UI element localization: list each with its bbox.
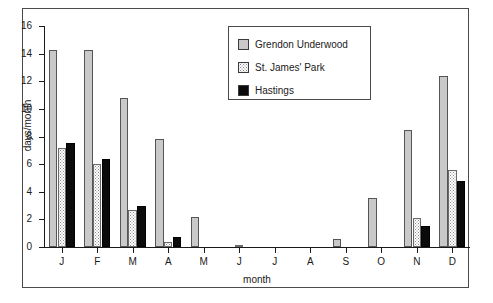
y-tick-4 [39,192,45,193]
x-tick-3 [168,248,169,253]
x-tick-label-1: F [82,256,112,267]
bar-stjames-J-5 [235,245,244,247]
x-tick-9 [381,248,382,253]
bar-stjames-M-2 [128,210,137,247]
x-tick-label-5: J [224,256,254,267]
bar-grendon-A-3 [155,139,164,247]
bar-grendon-M-2 [120,98,129,247]
y-tick-label-4: 4 [6,187,32,197]
y-tick-12 [39,81,45,82]
bar-grendon-F-1 [84,50,93,248]
x-tick-6 [275,248,276,253]
x-tick-0 [62,248,63,253]
bar-stjames-J-0 [58,148,67,247]
x-tick-label-6: J [260,256,290,267]
bar-hastings-D-11 [457,181,466,247]
bar-grendon-J-0 [49,50,58,248]
bar-stjames-A-3 [164,242,173,248]
y-tick-label-0: 0 [6,242,32,252]
x-tick-8 [346,248,347,253]
y-tick-10 [39,109,45,110]
bar-grendon-D-11 [439,76,448,247]
bar-hastings-J-0 [66,143,75,247]
x-tick-label-2: M [118,256,148,267]
x-tick-label-10: N [402,256,432,267]
y-axis-title: days/month [22,81,33,171]
y-tick-label-16: 16 [6,21,32,31]
x-tick-7 [310,248,311,253]
y-tick-0 [39,247,45,248]
y-tick-6 [39,164,45,165]
x-tick-5 [239,248,240,253]
y-tick-8 [39,137,45,138]
x-tick-label-4: M [189,256,219,267]
legend-swatch-grendon-icon [238,39,249,50]
x-axis-title: month [44,274,470,285]
x-tick-label-8: S [331,256,361,267]
bar-grendon-N-10 [404,130,413,247]
x-tick-label-0: J [47,256,77,267]
figure-frame: 0246810121416 JFMAMJJASOND days/month mo… [0,0,493,303]
x-tick-label-3: A [153,256,183,267]
y-tick-2 [39,219,45,220]
x-tick-label-7: A [295,256,325,267]
bar-grendon-O-9 [368,198,377,247]
y-tick-16 [39,26,45,27]
y-tick-label-14: 14 [6,49,32,59]
x-axis-line [44,247,470,248]
x-tick-label-9: O [366,256,396,267]
legend-label-stjames: St. James' Park [255,62,325,74]
x-tick-10 [417,248,418,253]
x-tick-2 [133,248,134,253]
bar-grendon-M-4 [191,217,200,247]
x-tick-label-11: D [437,256,467,267]
x-tick-11 [452,248,453,253]
x-tick-1 [97,248,98,253]
legend-label-hastings: Hastings [255,85,294,97]
x-tick-4 [204,248,205,253]
bar-grendon-S-8 [333,239,342,247]
bar-hastings-A-3 [173,237,182,247]
chart-legend: Grendon UnderwoodSt. James' ParkHastings [228,26,371,100]
y-tick-label-2: 2 [6,214,32,224]
bar-chart-plot-area: 0246810121416 JFMAMJJASOND days/month mo… [0,0,493,303]
legend-swatch-hastings-icon [238,85,249,96]
legend-swatch-stjames-icon [238,62,249,73]
y-tick-14 [39,54,45,55]
bar-hastings-M-2 [137,206,146,247]
legend-label-grendon: Grendon Underwood [255,39,348,51]
bar-stjames-F-1 [93,164,102,247]
bar-hastings-N-10 [421,226,430,247]
bar-stjames-D-11 [448,170,457,247]
bar-stjames-N-10 [413,218,422,247]
bar-hastings-F-1 [102,159,111,247]
